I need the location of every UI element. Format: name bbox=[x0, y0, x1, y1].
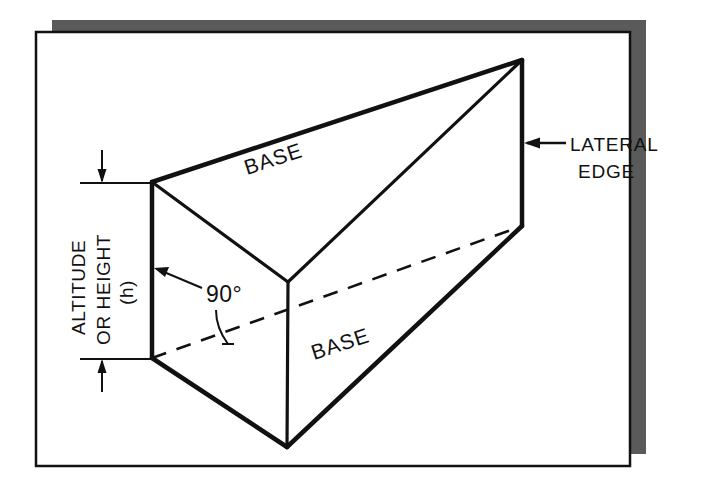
lateral-edge-label-line2: EDGE bbox=[578, 161, 635, 182]
lateral-edge-center bbox=[287, 282, 288, 447]
prism-figure: ALTITUDE OR HEIGHT (h) 90° LATERAL EDGE … bbox=[0, 0, 716, 490]
altitude-label-line2: OR HEIGHT bbox=[93, 234, 114, 345]
lateral-edge-label-line1: LATERAL bbox=[570, 134, 659, 155]
angle-label-90deg: 90° bbox=[206, 281, 242, 307]
prism-diagram-svg: ALTITUDE OR HEIGHT (h) 90° LATERAL EDGE … bbox=[0, 0, 716, 490]
altitude-label-line1: ALTITUDE bbox=[68, 240, 89, 335]
altitude-label-line3: (h) bbox=[116, 280, 137, 305]
